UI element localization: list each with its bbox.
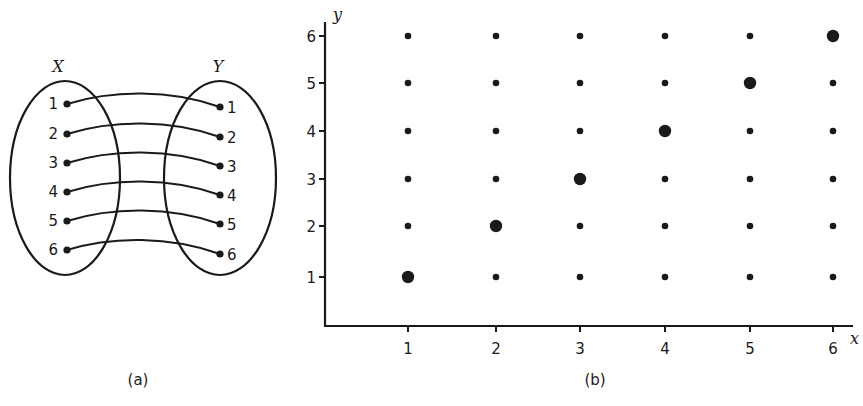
y-element-label: 5 [227,216,237,234]
y-element-label: 3 [227,158,237,176]
grid-point [405,80,412,87]
caption-a: (a) [128,371,149,389]
y-element-label: 4 [227,187,237,205]
relation-point [827,30,839,42]
relation-point [744,77,756,89]
set-x-label: X [50,57,64,76]
grid-point [493,80,500,87]
y-element-label: 2 [227,129,237,147]
grid-point [830,176,837,183]
grid-point [662,33,669,40]
x-tick-label: 5 [745,340,755,358]
relation-point [574,173,586,185]
grid-point [577,80,584,87]
grid-point [493,274,500,281]
grid-point [577,128,584,135]
grid-point [493,33,500,40]
grid-point [577,223,584,230]
set-y-label: Y [213,57,225,76]
grid-point [405,176,412,183]
mapping-arrow [67,152,220,166]
x-element-label: 5 [48,212,58,230]
panel-a-mapping-diagram: X Y 123456123456 (a) [10,57,276,389]
x-tick-label: 6 [828,340,838,358]
mapping-arrow [67,210,220,224]
grid-point [830,223,837,230]
relation-point [659,125,671,137]
set-x-ellipse [10,81,120,275]
y-tick-label: 4 [306,123,316,141]
x-element-label: 3 [48,154,58,172]
y-element-label: 6 [227,246,237,264]
x-element-label: 6 [48,241,58,259]
grid-point [493,176,500,183]
grid-point [747,176,754,183]
mapping-arrow [67,93,220,107]
mapping-arrow [67,181,220,195]
grid-point [747,223,754,230]
relation-point [490,220,502,232]
figure-canvas: X Y 123456123456 (a) y x 123456123456 (b… [0,0,863,406]
grid-point [662,176,669,183]
grid-point [577,274,584,281]
grid-point [747,33,754,40]
grid-point [830,274,837,281]
x-element-label: 4 [48,183,58,201]
x-tick-label: 1 [403,340,413,358]
grid-point [747,128,754,135]
y-tick-label: 1 [306,269,316,287]
grid-point [747,274,754,281]
grid-point [830,128,837,135]
x-tick-label: 3 [575,340,585,358]
x-element-label: 1 [48,95,58,113]
y-tick-label: 2 [306,218,316,236]
y-axis-label: y [332,5,343,24]
panel-b-cartesian-plot: y x 123456123456 (b) [306,5,859,389]
relation-point [402,271,414,283]
grid-point [577,33,584,40]
y-element-label: 1 [227,99,237,117]
grid-point [405,33,412,40]
x-axis-label: x [850,329,859,348]
grid-point [493,128,500,135]
mapping-arrow [67,240,220,254]
x-element-label: 2 [48,125,58,143]
caption-b: (b) [584,371,605,389]
x-tick-label: 4 [660,340,670,358]
grid-point [830,80,837,87]
grid-point [405,223,412,230]
y-tick-label: 6 [306,28,316,46]
x-tick-label: 2 [491,340,501,358]
y-tick-label: 5 [306,75,316,93]
grid-point [662,274,669,281]
mapping-arrow [67,123,220,137]
grid-point [405,128,412,135]
grid-point [662,223,669,230]
y-tick-label: 3 [306,171,316,189]
grid-point [662,80,669,87]
